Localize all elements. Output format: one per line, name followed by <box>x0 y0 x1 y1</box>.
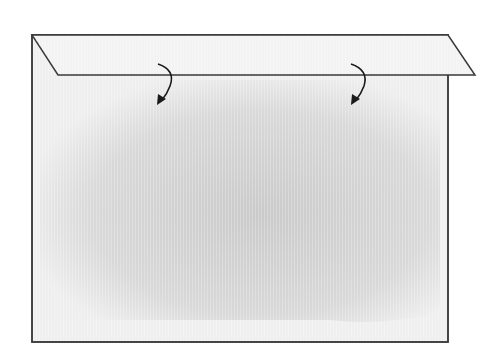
folded-flap <box>32 35 475 75</box>
fold-diagram <box>0 0 477 355</box>
diagram-canvas <box>0 0 477 355</box>
sheet-body <box>32 35 448 342</box>
